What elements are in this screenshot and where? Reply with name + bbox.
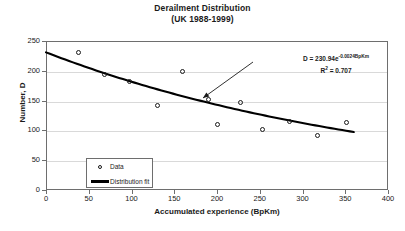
legend-item-data: Data <box>87 159 152 174</box>
r-squared-value: = 0.707 <box>328 67 352 74</box>
data-point-marker <box>76 50 81 55</box>
legend-item-fit: Distribution fit <box>87 174 152 189</box>
equation-exponent: -0.0024BpKm <box>339 54 369 59</box>
data-point-marker <box>180 69 185 74</box>
data-point-marker <box>238 100 243 105</box>
data-point-marker <box>315 133 320 138</box>
equation-line-1: D = 230.94e-0.0024BpKm <box>286 52 386 64</box>
line-swatch-icon <box>90 180 110 183</box>
equation-base: D = 230.94e <box>303 55 339 62</box>
data-points-layer <box>0 0 405 231</box>
data-point-marker <box>215 122 220 127</box>
fit-equation-annotation: D = 230.94e-0.0024BpKm R2 = 0.707 <box>286 52 386 75</box>
data-point-marker <box>260 127 265 132</box>
equation-line-2: R2 = 0.707 <box>286 64 386 76</box>
open-circle-icon <box>90 165 110 169</box>
chart-figure: Derailment Distribution (UK 1988-1999) 0… <box>0 0 405 231</box>
legend-label-data: Data <box>110 163 124 171</box>
data-point-marker <box>127 79 132 84</box>
data-point-marker <box>206 97 211 102</box>
data-point-marker <box>155 103 160 108</box>
chart-legend: Data Distribution fit <box>86 158 153 188</box>
data-point-marker <box>102 72 107 77</box>
data-point-marker <box>287 119 292 124</box>
legend-label-fit: Distribution fit <box>110 178 149 186</box>
data-point-marker <box>344 120 349 125</box>
